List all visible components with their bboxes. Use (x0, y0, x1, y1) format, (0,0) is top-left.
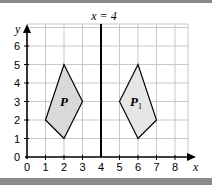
tick-marks (24, 46, 175, 160)
x-tick-4: 4 (98, 161, 104, 173)
y-tick-6: 6 (14, 40, 20, 52)
coordinate-grid: 0 1 2 3 4 5 6 7 8 0 1 2 3 4 5 6 x y x = … (0, 0, 212, 185)
bottom-band (0, 178, 212, 185)
x-tick-6: 6 (135, 161, 141, 173)
x-tick-7: 7 (153, 161, 159, 173)
y-tick-5: 5 (14, 59, 20, 71)
shape-p-label: P (60, 94, 69, 109)
y-tick-4: 4 (14, 77, 20, 89)
shape-p1-subscript: 1 (138, 102, 142, 111)
x-tick-3: 3 (79, 161, 85, 173)
x-axis-label: x (192, 160, 199, 174)
y-axis-arrow-icon (23, 24, 31, 33)
y-axis-label: y (14, 22, 21, 36)
y-tick-3: 3 (14, 96, 20, 108)
x-tick-0: 0 (24, 161, 30, 173)
x-tick-2: 2 (61, 161, 67, 173)
y-tick-2: 2 (14, 114, 20, 126)
x-tick-1: 1 (42, 161, 48, 173)
y-tick-1: 1 (14, 133, 20, 145)
x-tick-5: 5 (116, 161, 122, 173)
x-tick-8: 8 (172, 161, 178, 173)
grid-lines (27, 24, 188, 157)
diagram-frame: 0 1 2 3 4 5 6 7 8 0 1 2 3 4 5 6 x y x = … (0, 0, 212, 185)
mirror-line-label: x = 4 (90, 9, 116, 23)
y-tick-0: 0 (14, 151, 20, 163)
